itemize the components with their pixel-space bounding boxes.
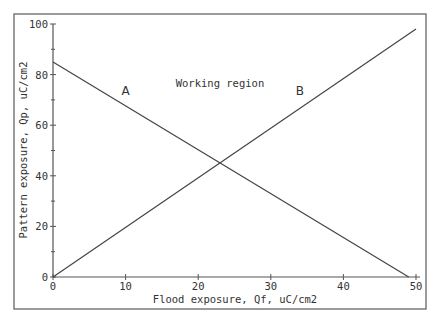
y-tick-label: 0 [42,271,48,283]
y-tick-label: 40 [35,170,48,182]
axes: 02040608010001020304050 [29,18,422,292]
series-label-b: B [296,84,304,98]
y-tick-label: 80 [35,69,48,81]
series-label-a: A [121,84,130,98]
y-tick-label: 60 [35,119,48,131]
x-axis-label: Flood exposure, Qf, uC/cm2 [153,293,317,305]
x-tick-label: 40 [337,280,350,292]
y-tick-label: 20 [35,220,48,232]
series-line-b [53,29,416,277]
series-group [53,29,416,277]
annotation: Working region [176,77,265,89]
series-line-a [53,62,409,277]
x-tick-label: 50 [410,280,423,292]
labels-group: ABWorking region [121,77,303,98]
x-tick-label: 20 [192,280,205,292]
x-tick-label: 10 [119,280,132,292]
x-tick-label: 0 [50,280,56,292]
chart: 02040608010001020304050 ABWorking region… [0,0,439,328]
y-axis-label: Pattern exposure, Qp, uC/cm2 [17,61,29,238]
x-tick-label: 30 [264,280,277,292]
y-tick-label: 100 [29,18,48,30]
outer-frame [14,14,426,309]
